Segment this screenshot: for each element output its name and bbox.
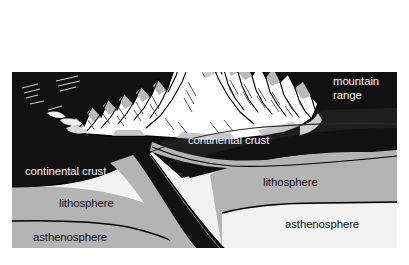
label-continental-crust-left: continental crust [25,165,107,177]
label-mountain-range-line2: range [333,89,362,101]
geologic-cross-section-diagram: mountain range continental crust contine… [0,0,409,265]
label-lithosphere-left: lithosphere [59,197,114,209]
label-asthenosphere-left: asthenosphere [33,231,107,243]
label-lithosphere-right: lithosphere [263,176,318,188]
label-continental-crust-right: continental crust [188,134,270,146]
label-asthenosphere-right: asthenosphere [285,218,359,230]
cross-section-illustration: mountain range continental crust contine… [0,0,409,265]
label-mountain-range-line1: mountain [333,75,379,87]
lower-slope-shade-left [112,130,146,136]
